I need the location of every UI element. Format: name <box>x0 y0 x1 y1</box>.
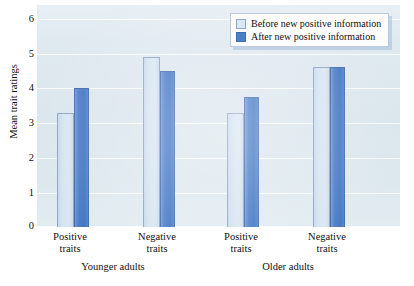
legend-swatch-before-icon <box>236 19 246 29</box>
gridline-2 <box>37 158 400 159</box>
gridline-1 <box>37 193 400 194</box>
y-tick-0: 0 <box>4 221 34 231</box>
gridline-3 <box>37 123 400 124</box>
legend-item-before: Before new positive information <box>236 17 381 30</box>
x-super-label-younger-adults: Younger adults <box>53 261 173 272</box>
bar-before-younger-negative <box>143 57 160 227</box>
y-tick-1: 1 <box>4 188 34 198</box>
gridline-0 <box>37 226 400 227</box>
x-label-younger-negative: Negative traits <box>127 231 187 254</box>
x-label-older-positive: Positive traits <box>211 231 271 254</box>
gridline-4 <box>37 88 400 89</box>
bar-before-older-negative <box>313 67 330 227</box>
legend-item-after: After new positive information <box>236 30 381 43</box>
bar-after-older-negative <box>330 67 345 227</box>
bar-after-younger-positive <box>74 88 89 227</box>
gridline-5 <box>37 54 400 55</box>
legend-label-before: Before new positive information <box>251 18 381 29</box>
y-axis-title: Mean trait ratings <box>8 37 19 167</box>
bar-after-older-positive <box>244 97 259 227</box>
legend-swatch-after-icon <box>236 32 246 42</box>
legend: Before new positive information After ne… <box>230 13 389 47</box>
bar-before-younger-positive <box>57 113 74 228</box>
x-super-label-older-adults: Older adults <box>228 261 348 272</box>
bar-chart: 6 5 4 3 2 1 0 Mean trait ratings Positiv… <box>0 0 414 286</box>
legend-label-after: After new positive information <box>251 31 375 42</box>
bar-after-younger-negative <box>160 71 175 227</box>
x-label-older-negative: Negative traits <box>297 231 357 254</box>
x-label-younger-positive: Positive traits <box>40 231 100 254</box>
y-tick-6: 6 <box>4 14 34 24</box>
bar-before-older-positive <box>227 113 244 228</box>
